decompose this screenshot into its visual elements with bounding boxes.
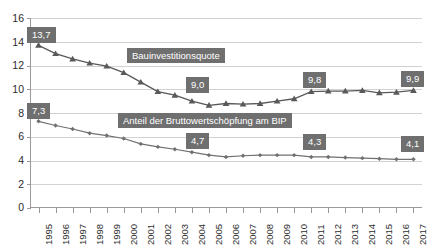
x-axis-tick-label: 2001	[145, 224, 156, 245]
data-point-marker	[309, 155, 313, 159]
data-label-lower-2004: 4,7	[186, 133, 209, 149]
x-axis-tick	[141, 208, 142, 213]
legend-bauinvestitionsquote: Bauinvestitionsquote	[127, 48, 225, 63]
x-axis-tick-label: 2005	[213, 224, 224, 245]
x-axis-tick	[192, 208, 193, 213]
x-axis-tick-label: 1997	[77, 224, 88, 245]
data-label-lower-1995: 7,3	[27, 103, 50, 119]
data-label-upper-2004: 9,0	[186, 77, 209, 93]
x-axis-tick	[175, 208, 176, 213]
x-axis-tick	[396, 208, 397, 213]
data-point-marker	[343, 155, 347, 159]
data-point-marker	[207, 153, 211, 157]
legend-bruttowertschoepfung: Anteil der Bruttowertschöpfung am BIP	[118, 113, 292, 128]
data-label-upper-2011: 9,8	[303, 72, 326, 88]
data-point-marker	[53, 123, 57, 127]
data-label-lower-2017: 4,1	[401, 136, 424, 152]
x-axis-tick	[158, 208, 159, 213]
data-point-marker	[275, 153, 279, 157]
data-point-marker	[377, 157, 381, 161]
data-point-marker	[326, 155, 330, 159]
data-point-marker	[87, 131, 91, 135]
x-axis-tick	[243, 208, 244, 213]
x-axis-tick	[413, 208, 414, 213]
data-point-marker	[154, 88, 161, 94]
data-point-marker	[394, 157, 398, 161]
x-axis-tick	[107, 208, 108, 213]
data-point-marker	[104, 133, 108, 137]
x-axis-tick	[311, 208, 312, 213]
x-axis-tick-label: 2011	[315, 225, 326, 245]
data-point-marker	[241, 154, 245, 158]
x-axis-tick-label: 2009	[281, 224, 292, 245]
x-axis-tick	[294, 208, 295, 213]
x-axis-tick-label: 2010	[298, 224, 309, 245]
data-point-marker	[360, 156, 364, 160]
data-point-marker	[36, 119, 40, 123]
x-axis-tick-label: 2004	[196, 224, 207, 245]
x-axis-tick-label: 2012	[332, 224, 343, 245]
x-axis-tick	[209, 208, 210, 213]
x-axis-tick	[345, 208, 346, 213]
x-axis-tick-label: 2000	[128, 224, 139, 245]
data-point-marker	[190, 150, 194, 154]
data-point-marker	[411, 157, 415, 161]
x-axis-tick-label: 2013	[349, 224, 360, 245]
x-axis-tick-label: 1999	[111, 224, 122, 245]
data-point-marker	[292, 153, 296, 157]
x-axis-tick-label: 2015	[383, 224, 394, 245]
x-axis-tick-label: 1995	[43, 224, 54, 245]
data-point-marker	[173, 147, 177, 151]
x-axis-tick-label: 2006	[230, 224, 241, 245]
x-axis-tick	[328, 208, 329, 213]
x-axis-tick-label: 2014	[366, 224, 377, 245]
x-axis-tick	[124, 208, 125, 213]
x-axis-tick-label: 1998	[94, 224, 105, 245]
data-point-marker	[52, 50, 59, 56]
data-point-marker	[224, 155, 228, 159]
x-axis-tick	[226, 208, 227, 213]
series-line-bauinvestitionsquote	[39, 45, 414, 105]
x-axis-tick-label: 1996	[60, 224, 71, 245]
x-axis-tick-label: 2017	[417, 224, 428, 245]
x-axis-tick	[73, 208, 74, 213]
data-label-upper-1995: 13,7	[27, 27, 56, 43]
data-label-upper-2017: 9,9	[401, 71, 424, 87]
x-axis-tick	[260, 208, 261, 213]
series-markers-bauinvestitionsquote	[35, 42, 417, 108]
x-axis-tick-label: 2016	[400, 224, 411, 245]
x-axis-tick-label: 2002	[162, 224, 173, 245]
data-label-lower-2011: 4,3	[303, 134, 326, 150]
x-axis-tick	[362, 208, 363, 213]
x-axis-tick-label: 2007	[247, 224, 258, 245]
data-point-marker	[258, 153, 262, 157]
x-axis-tick-label: 2008	[264, 224, 275, 245]
data-point-marker	[156, 145, 160, 149]
x-axis-tick	[277, 208, 278, 213]
x-axis-tick	[379, 208, 380, 213]
data-point-marker	[122, 136, 126, 140]
x-axis-tick	[39, 208, 40, 213]
x-axis-tick	[56, 208, 57, 213]
data-point-marker	[137, 79, 144, 85]
data-point-marker	[70, 127, 74, 131]
x-axis-tick-label: 2003	[179, 224, 190, 245]
chart-container: 16 14 12 10 8 6 4 2 0 19951996199	[0, 0, 429, 251]
data-point-marker	[139, 142, 143, 146]
x-axis-tick	[90, 208, 91, 213]
